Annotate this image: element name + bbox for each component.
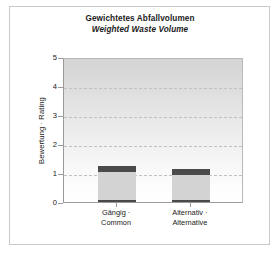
bar-2-segment-body [172, 175, 210, 200]
y-tick-label-1: 1 [35, 170, 57, 178]
y-tick-label-3: 3 [35, 112, 57, 120]
bar-1 [98, 166, 136, 202]
x-axis-label-2-en: Alternative [135, 218, 245, 228]
y-axis-label-wrap: Bewertung · Rating [34, 58, 48, 203]
x-axis-label-2-de: Alternativ · [135, 208, 245, 218]
y-tick-label-0: 0 [35, 199, 57, 207]
y-tick-label-2: 2 [35, 141, 57, 149]
x-tick-mark-1 [116, 203, 117, 207]
chart-figure: Gewichtetes Abfallvolumen Weighted Waste… [0, 0, 280, 256]
chart-title-de: Gewichtetes Abfallvolumen [0, 13, 280, 24]
gridline-1 [64, 175, 242, 176]
bar-1-segment-body [98, 172, 136, 200]
bar-2-segment-base [172, 200, 210, 202]
y-axis-label: Bewertung · Rating [37, 97, 46, 164]
plot-area [63, 58, 243, 203]
y-tick-label-4: 4 [35, 83, 57, 91]
x-axis-label-2: Alternativ ·Alternative [135, 208, 245, 227]
bar-1-segment-base [98, 200, 136, 202]
y-tick-mark-0 [58, 203, 63, 204]
bar-2 [172, 169, 210, 202]
chart-title-en: Weighted Waste Volume [0, 24, 280, 35]
gridline-4 [64, 88, 242, 89]
chart-title-block: Gewichtetes Abfallvolumen Weighted Waste… [0, 13, 280, 35]
gridline-3 [64, 117, 242, 118]
x-tick-mark-2 [190, 203, 191, 207]
gridline-2 [64, 146, 242, 147]
y-tick-label-5: 5 [35, 54, 57, 62]
